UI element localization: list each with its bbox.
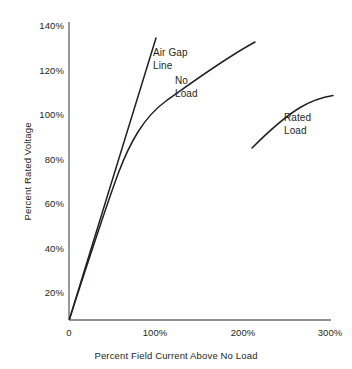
y-tick-label-120: 120% [20, 66, 64, 76]
annotation-rated-load: Rated Load [284, 112, 311, 137]
x-tick-label-100: 100% [135, 328, 175, 338]
x-tick-label-300: 300% [310, 328, 350, 338]
chart-figure: 140% 120% 100% 80% 60% 40% 20% 0 100% 20… [0, 0, 352, 369]
y-tick-label-140: 140% [20, 21, 64, 31]
x-tick-label-200: 200% [223, 328, 263, 338]
series-no-load-curve [70, 42, 256, 319]
annotation-no-load: No Load [175, 75, 198, 100]
y-tick-label-20: 20% [20, 288, 64, 298]
x-axis-title: Percent Field Current Above No Load [0, 350, 352, 361]
annotation-air-gap-line: Air Gap Line [153, 47, 188, 72]
y-axis-title: Percent Rated Voltage [22, 92, 33, 252]
x-tick-label-0: 0 [49, 328, 89, 338]
